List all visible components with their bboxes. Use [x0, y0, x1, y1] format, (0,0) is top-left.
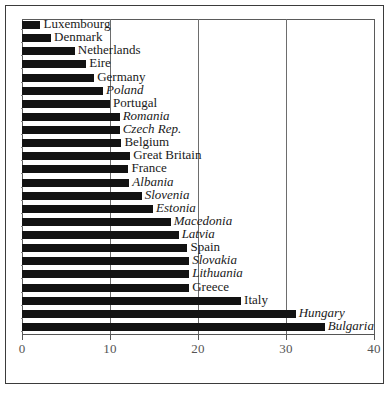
bar-label: Greece	[192, 280, 229, 294]
bar	[22, 47, 75, 55]
bar-row: Romania	[22, 111, 374, 125]
bar-row: Portugal	[22, 98, 374, 112]
row-tick-stub	[21, 318, 23, 319]
bar-row: Hungary	[22, 308, 374, 322]
x-tick-20	[198, 335, 199, 340]
row-tick-stub	[21, 82, 23, 83]
bar	[22, 231, 179, 239]
bar	[22, 192, 142, 200]
row-tick-stub	[21, 121, 23, 122]
row-tick-stub	[21, 252, 23, 253]
bar	[22, 284, 189, 292]
row-tick-stub	[21, 29, 23, 30]
row-tick-stub	[21, 160, 23, 161]
row-tick-stub	[21, 187, 23, 188]
x-tick-label-20: 20	[178, 341, 218, 357]
bar-row: Eire	[22, 58, 374, 72]
bar-row: Poland	[22, 85, 374, 99]
x-tick-label-0: 0	[2, 341, 42, 357]
row-tick-stub	[21, 213, 23, 214]
bar	[22, 310, 296, 318]
row-tick-stub	[21, 68, 23, 69]
bar	[22, 87, 103, 95]
bar-label: Bulgaria	[328, 319, 374, 333]
bar	[22, 257, 189, 265]
row-tick-stub	[21, 265, 23, 266]
chart-figure: LuxembourgDenmarkNetherlandsEireGermanyP…	[0, 0, 391, 395]
bar-row: Albania	[22, 177, 374, 191]
bar-label: Italy	[244, 293, 268, 307]
bar	[22, 270, 189, 278]
plot-area: LuxembourgDenmarkNetherlandsEireGermanyP…	[22, 19, 374, 334]
bar	[22, 74, 94, 82]
bar	[22, 244, 187, 252]
bar	[22, 152, 130, 160]
row-tick-stub	[21, 292, 23, 293]
bar-row: France	[22, 163, 374, 177]
bar-row: Germany	[22, 72, 374, 86]
x-tick-10	[110, 335, 111, 340]
bar-row: Greece	[22, 282, 374, 296]
bar-row: Bulgaria	[22, 321, 374, 335]
row-tick-stub	[21, 55, 23, 56]
row-tick-stub	[21, 147, 23, 148]
x-tick-30	[286, 335, 287, 340]
row-tick-stub	[21, 305, 23, 306]
bar	[22, 113, 120, 121]
bar-row: Denmark	[22, 32, 374, 46]
bar-row: Czech Rep.	[22, 124, 374, 138]
bar	[22, 179, 129, 187]
bar	[22, 60, 86, 68]
x-tick-label-40: 40	[354, 341, 391, 357]
row-tick-stub	[21, 134, 23, 135]
x-tick-label-10: 10	[90, 341, 130, 357]
bar	[22, 165, 128, 173]
row-tick-stub	[21, 200, 23, 201]
bar	[22, 126, 120, 134]
bar-row: Netherlands	[22, 45, 374, 59]
row-tick-stub	[21, 42, 23, 43]
row-tick-stub	[21, 239, 23, 240]
bar	[22, 205, 153, 213]
bar	[22, 323, 325, 331]
bar	[22, 34, 51, 42]
row-tick-stub	[21, 278, 23, 279]
x-tick-40	[374, 335, 375, 340]
bar-row: Great Britain	[22, 150, 374, 164]
x-tick-0	[22, 335, 23, 340]
bar	[22, 139, 121, 147]
bar-row: Slovenia	[22, 190, 374, 204]
row-tick-stub	[21, 108, 23, 109]
x-tick-label-30: 30	[266, 341, 306, 357]
row-tick-stub	[21, 173, 23, 174]
plot-frame-right	[374, 19, 375, 335]
bar	[22, 218, 171, 226]
bar	[22, 297, 241, 305]
row-tick-stub	[21, 331, 23, 332]
bar	[22, 100, 110, 108]
row-tick-stub	[21, 226, 23, 227]
bar	[22, 21, 40, 29]
row-tick-stub	[21, 95, 23, 96]
